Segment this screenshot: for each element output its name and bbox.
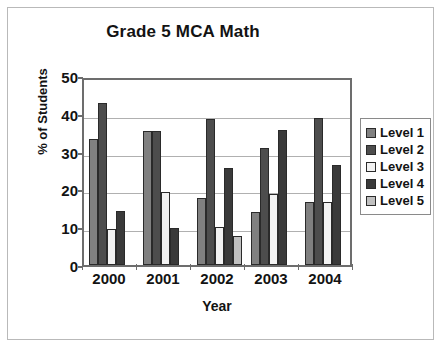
bar[interactable]	[323, 202, 332, 266]
y-axis-tick-label: 20	[44, 182, 78, 199]
bar[interactable]	[107, 229, 116, 265]
legend-swatch-icon	[366, 162, 376, 172]
legend-label: Level 2	[380, 142, 424, 157]
x-axis-tick-label: 2000	[79, 270, 139, 287]
bar[interactable]	[197, 198, 206, 265]
bar[interactable]	[251, 212, 260, 265]
x-axis-tick-mark	[190, 264, 191, 270]
bar-group	[246, 80, 300, 265]
legend-item[interactable]: Level 1	[366, 124, 424, 141]
x-axis-tick-mark	[82, 264, 83, 270]
x-axis-title: Year	[82, 298, 352, 314]
legend-label: Level 3	[380, 159, 424, 174]
plot-area	[82, 78, 352, 267]
bar[interactable]	[314, 118, 323, 265]
legend-item[interactable]: Level 2	[366, 141, 424, 158]
y-axis-tick-label: 10	[44, 220, 78, 237]
x-axis-tick-mark	[136, 264, 137, 270]
bar[interactable]	[269, 194, 278, 265]
bar[interactable]	[305, 202, 314, 266]
legend-item[interactable]: Level 3	[366, 158, 424, 175]
bar[interactable]	[233, 236, 242, 265]
bar[interactable]	[152, 131, 161, 265]
y-axis-title: % of Students	[35, 42, 50, 182]
bar-group	[192, 80, 246, 265]
bar[interactable]	[116, 211, 125, 265]
legend-item[interactable]: Level 5	[366, 192, 424, 209]
legend-swatch-icon	[366, 179, 376, 189]
x-axis-tick-mark	[298, 264, 299, 270]
bar[interactable]	[278, 130, 287, 265]
bar-group	[300, 80, 354, 265]
bar[interactable]	[332, 165, 341, 265]
x-axis-tick-label: 2004	[295, 270, 355, 287]
bar-group	[84, 80, 138, 265]
legend-swatch-icon	[366, 196, 376, 206]
x-axis-labels: 20002001200220032004	[82, 270, 352, 292]
legend-swatch-icon	[366, 128, 376, 138]
legend-label: Level 5	[380, 193, 424, 208]
bar[interactable]	[224, 168, 233, 265]
bar-group	[138, 80, 192, 265]
x-axis-tick-label: 2002	[187, 270, 247, 287]
x-axis-tick-mark	[352, 264, 353, 270]
bar[interactable]	[161, 192, 170, 265]
bar[interactable]	[260, 148, 269, 265]
bar[interactable]	[206, 119, 215, 265]
x-axis-tick-mark	[244, 264, 245, 270]
bar[interactable]	[89, 139, 98, 265]
y-axis-tick-label: 0	[44, 258, 78, 275]
x-axis-tick-label: 2003	[241, 270, 301, 287]
legend: Level 1Level 2Level 3Level 4Level 5	[360, 118, 431, 215]
legend-item[interactable]: Level 4	[366, 175, 424, 192]
chart-frame: Grade 5 MCA Math 01020304050 % of Studen…	[7, 7, 434, 340]
bar[interactable]	[143, 131, 152, 265]
bar[interactable]	[170, 228, 179, 265]
bar[interactable]	[215, 227, 224, 265]
legend-label: Level 4	[380, 176, 424, 191]
legend-swatch-icon	[366, 145, 376, 155]
x-axis-tick-label: 2001	[133, 270, 193, 287]
legend-label: Level 1	[380, 125, 424, 140]
bar[interactable]	[98, 103, 107, 265]
